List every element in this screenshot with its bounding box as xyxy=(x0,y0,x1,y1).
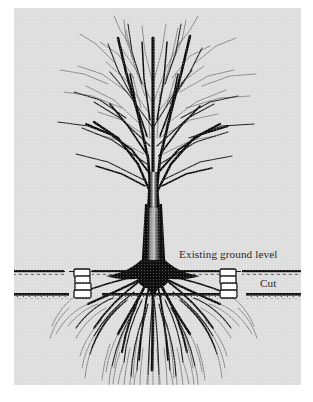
grade-stake-right xyxy=(220,269,237,298)
canopy-fine-twigs xyxy=(60,16,256,154)
existing-ground-level-label: Existing ground level xyxy=(179,249,277,260)
tree-grading-illustration xyxy=(14,8,301,385)
figure-root: Existing ground level Cut xyxy=(0,0,313,402)
canopy-secondary-branches xyxy=(58,24,254,180)
grade-stake-left xyxy=(74,269,91,298)
illustration-plate: Existing ground level Cut xyxy=(14,8,301,385)
root-system-primary xyxy=(78,276,228,370)
cut-label: Cut xyxy=(260,278,276,289)
